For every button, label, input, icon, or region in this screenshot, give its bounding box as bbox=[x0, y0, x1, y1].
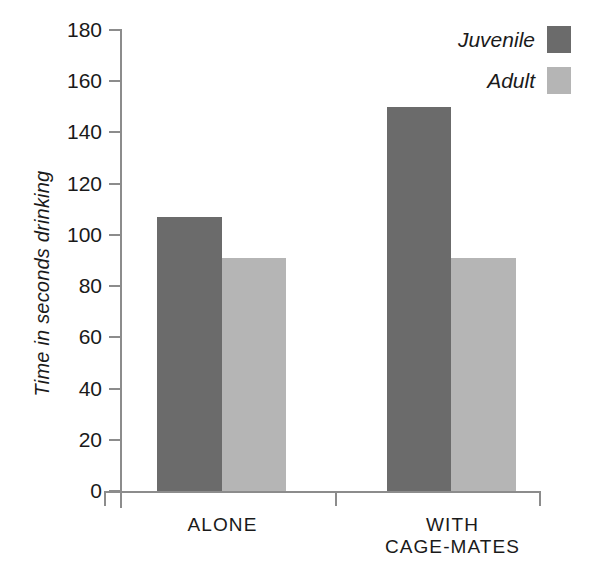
x-axis-tick bbox=[539, 492, 541, 506]
y-axis-tick-label: 120 bbox=[40, 173, 102, 194]
x-axis-tick bbox=[335, 492, 337, 506]
y-axis-tick-label: 20 bbox=[40, 429, 102, 450]
y-axis-tick-label: 100 bbox=[40, 224, 102, 245]
y-axis-tick-label: 60 bbox=[40, 326, 102, 347]
y-axis-tick-label: 160 bbox=[40, 70, 102, 91]
legend-item-juvenile: Juvenile bbox=[458, 26, 571, 53]
y-axis-tick-label: 80 bbox=[40, 275, 102, 296]
y-axis-tick-label: 180 bbox=[40, 19, 102, 40]
x-axis-tick bbox=[104, 492, 106, 506]
x-axis-category-label: ALONE bbox=[140, 514, 305, 536]
legend-label: Adult bbox=[487, 69, 535, 93]
legend-label: Juvenile bbox=[458, 28, 535, 52]
bar-adult-with-cage-mates bbox=[451, 258, 516, 491]
x-axis-category-label: WITHCAGE-MATES bbox=[370, 514, 535, 559]
legend-swatch-icon bbox=[547, 26, 571, 53]
plot-area bbox=[122, 30, 540, 491]
legend-item-adult: Adult bbox=[458, 67, 571, 94]
bar-chart: Time in seconds drinking 020406080100120… bbox=[0, 0, 593, 572]
x-axis-category-label-line: ALONE bbox=[140, 514, 305, 536]
y-axis-tick-label: 40 bbox=[40, 378, 102, 399]
legend-swatch-icon bbox=[547, 67, 571, 94]
x-axis-line bbox=[104, 491, 541, 493]
bar-juvenile-with-cage-mates bbox=[387, 107, 451, 491]
y-axis-tick-label: 0 bbox=[40, 480, 102, 501]
x-axis-category-label-line: CAGE-MATES bbox=[370, 536, 535, 558]
x-axis-category-label-line: WITH bbox=[370, 514, 535, 536]
y-axis-tick-label: 140 bbox=[40, 121, 102, 142]
bar-juvenile-alone bbox=[157, 217, 222, 491]
bar-adult-alone bbox=[222, 258, 286, 491]
chart-legend: JuvenileAdult bbox=[458, 26, 571, 94]
